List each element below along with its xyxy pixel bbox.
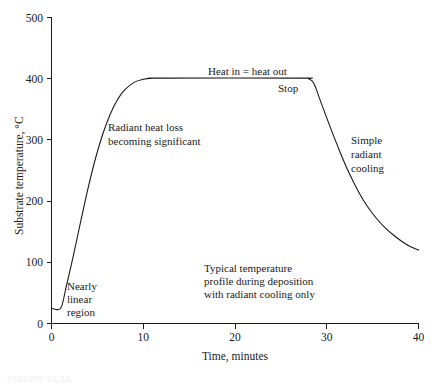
y-tick-label-100: 100 bbox=[26, 256, 44, 268]
figure-root: 500 400 300 200 100 0 Substrate temperat… bbox=[0, 0, 444, 384]
y-tick-label-200: 200 bbox=[26, 195, 44, 207]
temperature-profile-chart: 500 400 300 200 100 0 Substrate temperat… bbox=[0, 0, 444, 384]
annotation-line: cooling bbox=[351, 162, 384, 174]
annotation-line: Radiant heat loss bbox=[108, 121, 183, 133]
annotation-line: linear bbox=[67, 293, 92, 305]
x-tick-label-40: 40 bbox=[413, 331, 425, 343]
y-axis-title: Substrate temperature, °C bbox=[13, 116, 26, 235]
annotation-line: region bbox=[67, 306, 96, 318]
x-axis-title: Time, minutes bbox=[202, 350, 269, 363]
annotation-line: Nearly bbox=[67, 280, 97, 292]
annotation-simple-radiant-cooling: Simple radiant cooling bbox=[351, 134, 384, 174]
y-tick-label-300: 300 bbox=[26, 134, 44, 146]
annotation-line: profile during deposition bbox=[204, 275, 314, 287]
y-tick-label-0: 0 bbox=[37, 318, 43, 330]
x-tick-label-0: 0 bbox=[49, 331, 55, 343]
annotation-line: becoming significant bbox=[108, 135, 201, 147]
annotation-heat-in-equals-heat-out: Heat in = heat out bbox=[208, 65, 287, 77]
annotation-line: with radiant cooling only bbox=[204, 288, 315, 300]
annotation-line: Simple bbox=[351, 134, 382, 146]
annotation-nearly-linear-region: Nearly linear region bbox=[67, 280, 97, 318]
annotation-radiant-heat-loss: Radiant heat loss becoming significant bbox=[108, 121, 201, 147]
x-axis: 0 10 20 30 40 Time, minutes bbox=[49, 324, 425, 364]
annotation-line: Typical temperature bbox=[204, 262, 292, 274]
y-tick-label-400: 400 bbox=[26, 73, 44, 85]
annotation-line: Stop bbox=[278, 82, 299, 94]
annotation-stop: Stop bbox=[278, 82, 299, 94]
x-tick-label-20: 20 bbox=[229, 331, 241, 343]
annotation-line: radiant bbox=[351, 148, 382, 160]
figure-caption: FIGURE 10.12 bbox=[7, 374, 71, 384]
x-tick-label-10: 10 bbox=[138, 331, 150, 343]
annotation-typical-temperature-profile: Typical temperature profile during depos… bbox=[204, 262, 315, 300]
y-axis: 500 400 300 200 100 0 Substrate temperat… bbox=[13, 12, 52, 330]
x-tick-label-30: 30 bbox=[321, 331, 333, 343]
y-tick-label-500: 500 bbox=[26, 12, 44, 24]
annotation-line: Heat in = heat out bbox=[208, 65, 287, 77]
